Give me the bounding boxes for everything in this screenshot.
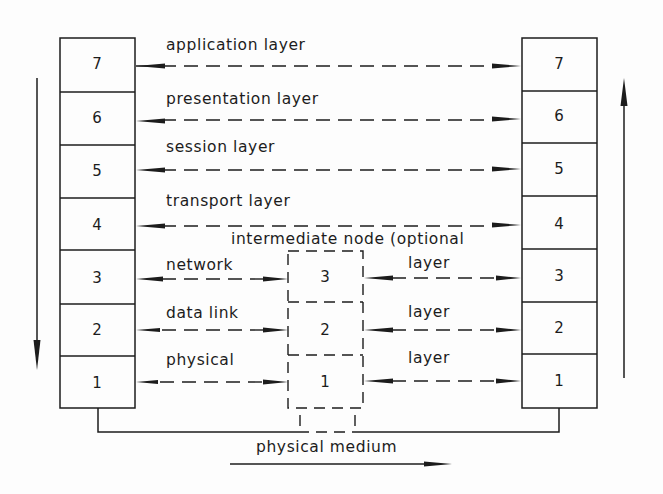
intermediate-layer-1: 1 [320, 373, 330, 391]
peer-link-session: session layer [136, 138, 521, 173]
right-layer-7: 7 [554, 55, 564, 73]
left-down-arrow [34, 78, 41, 370]
svg-text:network: network [166, 256, 233, 274]
intermediate-node-caption: intermediate node (optional [231, 230, 464, 248]
left-layer-7: 7 [92, 55, 102, 73]
svg-text:session layer: session layer [166, 138, 275, 156]
svg-text:layer: layer [408, 303, 450, 321]
intermediate-layer-2: 2 [320, 321, 330, 339]
link-network-left: network [136, 256, 288, 282]
left-layer-1: 1 [92, 374, 102, 392]
right-layer-3: 3 [554, 267, 564, 285]
link-datalink-left: data link [136, 304, 288, 333]
link-physical-left: physical [136, 351, 288, 385]
osi-diagram: 7 6 5 4 3 2 1 7 6 5 4 3 2 1 application … [0, 0, 663, 494]
right-layer-2: 2 [554, 319, 564, 337]
left-layer-5: 5 [92, 162, 102, 180]
link-network-right: layer [364, 254, 521, 281]
physical-medium-label: physical medium [256, 438, 397, 456]
svg-text:presentation layer: presentation layer [166, 90, 319, 108]
right-layer-6: 6 [554, 107, 564, 125]
left-layer-stack: 7 6 5 4 3 2 1 [60, 38, 135, 408]
link-physical-right: layer [364, 349, 521, 384]
right-layer-stack: 7 6 5 4 3 2 1 [522, 38, 597, 408]
left-layer-6: 6 [92, 109, 102, 127]
link-datalink-right: layer [364, 303, 521, 333]
peer-link-transport: transport layer [136, 192, 521, 229]
intermediate-layer-3: 3 [320, 268, 330, 286]
right-up-arrow [621, 78, 628, 378]
svg-text:data link: data link [166, 304, 239, 322]
svg-text:layer: layer [408, 254, 450, 272]
left-layer-3: 3 [92, 269, 102, 287]
svg-text:layer: layer [408, 349, 450, 367]
svg-text:physical: physical [166, 351, 234, 369]
svg-text:transport layer: transport layer [166, 192, 290, 210]
peer-link-application: application layer [136, 36, 521, 69]
svg-text:application layer: application layer [166, 36, 306, 54]
left-layer-4: 4 [92, 216, 102, 234]
left-layer-2: 2 [92, 321, 102, 339]
right-layer-4: 4 [554, 215, 564, 233]
right-layer-5: 5 [554, 160, 564, 178]
right-layer-1: 1 [554, 372, 564, 390]
peer-link-presentation: presentation layer [136, 90, 521, 124]
physical-medium: physical medium [98, 408, 559, 467]
